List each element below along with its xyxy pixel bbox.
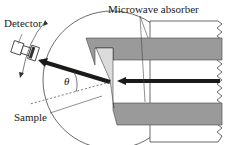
absorber-label: Microwave absorber	[108, 4, 199, 15]
lower-absorber	[113, 103, 222, 125]
detector-label: Detector	[4, 18, 42, 29]
scattered-beam	[44, 62, 110, 82]
theta-arc	[74, 72, 77, 92]
sample-label: Sample	[14, 112, 47, 123]
detector-icon	[10, 40, 39, 61]
reference-line	[30, 82, 110, 104]
theta-label: θ	[64, 76, 69, 87]
diagram-canvas: Detector Microwave absorber Sample θ	[0, 0, 227, 145]
